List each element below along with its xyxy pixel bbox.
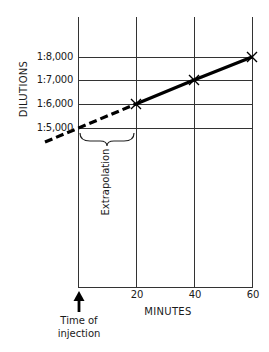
y-tick-8000: 1:8,000 [37, 51, 73, 63]
extrapolation-brace-icon [80, 133, 134, 146]
y-tick-5000: 1:5,000 [37, 122, 73, 134]
x-tick-20: 20 [131, 289, 144, 301]
injection-arrow-icon [74, 291, 85, 312]
extrapolation-label: Extrapolation [100, 149, 111, 216]
y-axis-label: DILUTIONS [18, 61, 29, 118]
x-axis-label: MINUTES [144, 306, 191, 317]
y-tick-6000: 1:6,000 [37, 98, 73, 110]
x-tick-40: 40 [189, 289, 202, 301]
injection-label-line2: injection [58, 327, 101, 340]
injection-label-line1: Time of [58, 314, 101, 327]
y-tick-7000: 1:7,000 [37, 74, 73, 86]
injection-label: Time of injection [58, 314, 101, 340]
x-tick-60: 60 [247, 289, 260, 301]
